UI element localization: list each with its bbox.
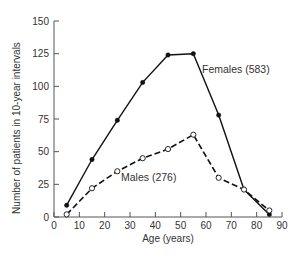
y-tick-label: 125: [32, 48, 49, 59]
y-tick-label: 50: [38, 146, 50, 157]
x-tick-label: 40: [150, 220, 162, 231]
series-lines: [64, 51, 272, 217]
x-axis-title: Age (years): [142, 233, 194, 244]
males-point: [89, 186, 94, 191]
line-chart: 02550751001251500102030405060708090 Age …: [0, 0, 295, 258]
x-tick-label: 80: [251, 220, 263, 231]
x-tick-label: 10: [74, 220, 86, 231]
males-label: Males (276): [121, 171, 176, 183]
y-tick-label: 75: [38, 114, 50, 125]
x-tick-label: 90: [276, 220, 288, 231]
males-point: [267, 208, 272, 213]
females-point: [191, 51, 195, 55]
x-tick-label: 0: [51, 220, 57, 231]
x-tick-label: 30: [124, 220, 136, 231]
y-tick-label: 150: [32, 16, 49, 27]
males-point: [140, 156, 145, 161]
y-axis-title: Number of patients in 10-year intervals: [11, 42, 22, 214]
males-point: [216, 175, 221, 180]
y-tick-label: 25: [38, 179, 50, 190]
females-point: [64, 203, 68, 207]
females-point: [140, 80, 144, 84]
females-point: [115, 118, 119, 122]
females-label: Females (583): [202, 63, 270, 75]
females-line: [67, 54, 270, 215]
males-point: [115, 169, 120, 174]
x-tick-label: 60: [200, 220, 212, 231]
y-tick-label: 0: [43, 212, 49, 223]
females-point: [166, 53, 170, 57]
males-point: [241, 187, 246, 192]
x-tick-label: 70: [226, 220, 238, 231]
males-point: [191, 132, 196, 137]
females-point: [216, 113, 220, 117]
males-point: [64, 212, 69, 217]
females-point: [90, 157, 94, 161]
chart-canvas: 02550751001251500102030405060708090 Age …: [0, 0, 295, 258]
y-tick-label: 100: [32, 81, 49, 92]
x-tick-label: 50: [175, 220, 187, 231]
males-point: [165, 146, 170, 151]
x-tick-label: 20: [99, 220, 111, 231]
